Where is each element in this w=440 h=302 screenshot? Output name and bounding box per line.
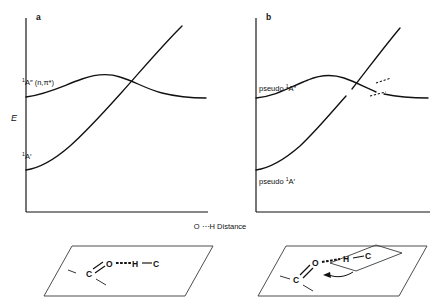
panel-a-lower-label: 1A′ xyxy=(22,151,32,161)
planar-donor-c: C xyxy=(153,259,159,269)
panel-b-upper-curve-right xyxy=(384,94,428,98)
panel-b-upper-term: A″ xyxy=(289,84,297,93)
oop-co-double-bond-2 xyxy=(303,268,313,278)
panel-b: b pseudo 1A″ pseudo 1A′ xyxy=(256,12,430,212)
structure-out-of-plane: C O H C xyxy=(258,245,427,296)
planar-c-substituent-1 xyxy=(68,270,76,273)
panel-a-lower-term: A′ xyxy=(25,152,32,161)
panel-b-letter: b xyxy=(266,12,271,22)
panel-a-lower-curve xyxy=(26,26,182,170)
svg-text:1A″ (n,π*): 1A″ (n,π*) xyxy=(22,77,54,87)
svg-text:pseudo 1A″: pseudo 1A″ xyxy=(259,83,297,93)
oop-donor-c: C xyxy=(365,251,371,261)
panel-b-lower-prefix: pseudo xyxy=(259,177,286,186)
figure-container: a E 1A″ (n,π*) 1A′ b xyxy=(0,0,440,302)
panel-b-lower-term: A′ xyxy=(289,177,296,186)
oop-c-substituent-1 xyxy=(280,276,290,279)
oop-co-double-bond-1 xyxy=(300,265,310,275)
structure-planar: C O H C xyxy=(44,246,213,296)
planar-carbonyl-o: O xyxy=(106,259,113,269)
panel-a: a E 1A″ (n,π*) 1A′ xyxy=(11,12,208,212)
oop-hc-bond xyxy=(353,256,364,258)
panel-b-upper-label: pseudo 1A″ xyxy=(259,83,297,93)
oop-carbonyl-c: C xyxy=(293,275,299,285)
panel-a-upper-config: (n,π*) xyxy=(33,78,55,87)
x-axis-label: O ⋯H Distance xyxy=(194,222,247,231)
oop-c-substituent-2 xyxy=(303,285,313,291)
planar-carbonyl-c: C xyxy=(86,269,92,279)
panel-b-diabatic-stub-upper xyxy=(376,78,391,83)
panel-b-lower-label: pseudo 1A′ xyxy=(259,176,296,186)
oop-h: H xyxy=(343,254,349,264)
panel-a-upper-label: 1A″ (n,π*) xyxy=(22,77,54,87)
svg-text:1A′: 1A′ xyxy=(22,151,32,161)
panel-b-lower-curve-left xyxy=(256,96,346,170)
planar-c-substituent-2 xyxy=(96,279,106,285)
planar-plane xyxy=(44,246,213,296)
oop-rotation-arrowhead xyxy=(323,272,331,278)
panel-a-y-axis-label: E xyxy=(11,113,18,123)
panel-b-lower-curve-right xyxy=(352,28,400,89)
planar-h: H xyxy=(132,259,138,269)
panel-a-letter: a xyxy=(36,12,41,22)
oop-rotation-arrow xyxy=(329,272,353,277)
oop-carbonyl-o: O xyxy=(312,258,319,268)
panel-b-upper-prefix: pseudo xyxy=(259,84,286,93)
svg-text:pseudo 1A′: pseudo 1A′ xyxy=(259,176,296,186)
